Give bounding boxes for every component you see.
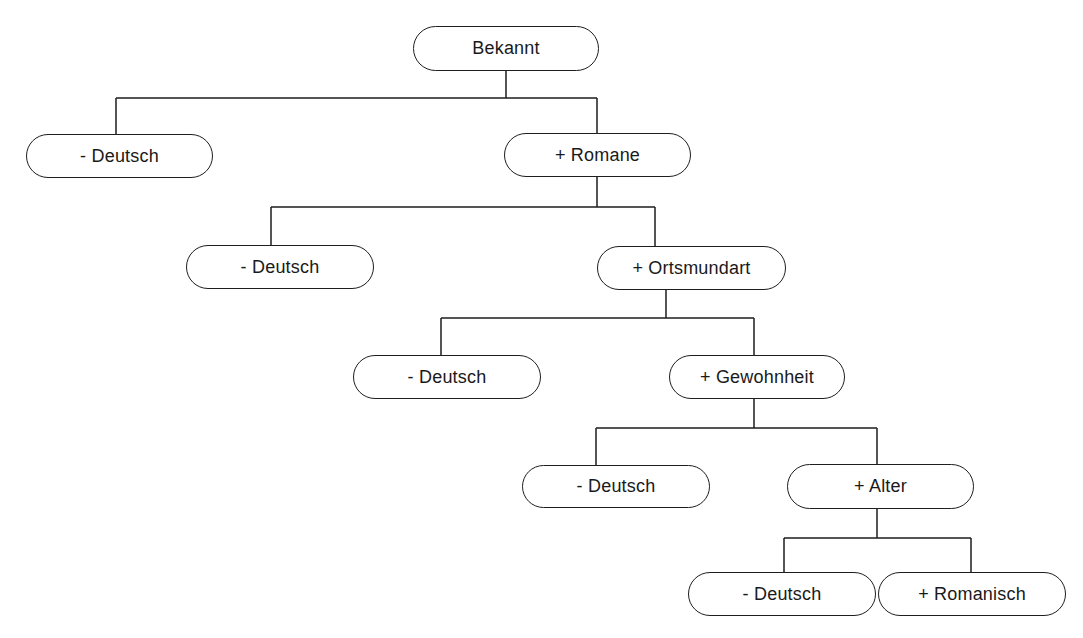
edge-romane: [271, 177, 655, 246]
node-bekannt: Bekannt: [413, 26, 599, 71]
node-deutsch-3: - Deutsch: [353, 355, 541, 399]
node-gewohnheit: + Gewohnheit: [669, 355, 845, 399]
node-deutsch-4: - Deutsch: [522, 465, 710, 508]
node-deutsch-2: - Deutsch: [186, 245, 374, 289]
node-deutsch-1: - Deutsch: [26, 134, 213, 178]
connector-lines: [0, 0, 1083, 638]
edge-ortsmundart: [441, 290, 754, 355]
edge-bekannt: [116, 71, 597, 134]
node-romane: + Romane: [504, 133, 691, 177]
edge-gewohnheit: [596, 399, 877, 465]
node-deutsch-5: - Deutsch: [688, 572, 876, 616]
node-ortsmundart: + Ortsmundart: [597, 246, 786, 290]
decision-tree-diagram: Bekannt - Deutsch + Romane - Deutsch + O…: [0, 0, 1083, 638]
node-alter: + Alter: [787, 464, 974, 509]
node-romanisch: + Romanisch: [878, 572, 1066, 616]
edge-alter: [784, 509, 971, 572]
